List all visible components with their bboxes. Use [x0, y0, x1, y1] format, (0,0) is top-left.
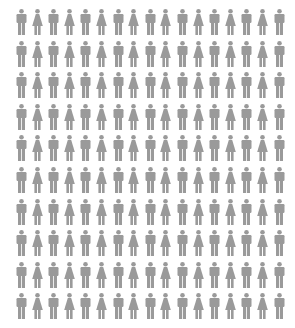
person-male-icon	[241, 135, 252, 161]
person-female-icon	[193, 104, 204, 130]
person-female-icon	[193, 167, 204, 193]
person-male-icon	[145, 230, 156, 256]
person-male-icon	[80, 167, 91, 193]
person-female-icon	[128, 293, 139, 319]
person-male-icon	[80, 262, 91, 288]
person-male-icon	[209, 9, 220, 35]
person-female-icon	[128, 135, 139, 161]
person-female-icon	[128, 167, 139, 193]
person-female-icon	[193, 72, 204, 98]
person-male-icon	[145, 72, 156, 98]
person-male-icon	[48, 293, 59, 319]
person-female-icon	[64, 199, 75, 225]
person-male-icon	[80, 135, 91, 161]
person-male-icon	[16, 230, 27, 256]
person-female-icon	[64, 167, 75, 193]
person-male-icon	[209, 230, 220, 256]
person-male-icon	[177, 230, 188, 256]
person-male-icon	[274, 230, 285, 256]
person-male-icon	[274, 262, 285, 288]
person-male-icon	[80, 104, 91, 130]
person-female-icon	[32, 262, 43, 288]
person-female-icon	[128, 199, 139, 225]
person-female-icon	[64, 135, 75, 161]
person-male-icon	[241, 262, 252, 288]
person-male-icon	[113, 262, 124, 288]
person-female-icon	[225, 230, 236, 256]
person-female-icon	[64, 293, 75, 319]
person-male-icon	[177, 293, 188, 319]
person-male-icon	[241, 293, 252, 319]
person-male-icon	[145, 135, 156, 161]
person-male-icon	[48, 167, 59, 193]
person-female-icon	[160, 41, 171, 67]
person-male-icon	[145, 167, 156, 193]
person-female-icon	[225, 293, 236, 319]
person-female-icon	[96, 104, 107, 130]
person-female-icon	[96, 230, 107, 256]
person-male-icon	[48, 199, 59, 225]
person-female-icon	[128, 41, 139, 67]
person-male-icon	[274, 293, 285, 319]
person-female-icon	[160, 104, 171, 130]
person-male-icon	[113, 9, 124, 35]
person-female-icon	[160, 167, 171, 193]
person-female-icon	[96, 135, 107, 161]
person-male-icon	[274, 135, 285, 161]
person-female-icon	[96, 262, 107, 288]
person-male-icon	[16, 72, 27, 98]
person-male-icon	[274, 199, 285, 225]
pictogram-grid	[0, 0, 295, 328]
person-female-icon	[32, 9, 43, 35]
person-male-icon	[241, 72, 252, 98]
person-male-icon	[80, 230, 91, 256]
person-male-icon	[16, 104, 27, 130]
person-female-icon	[32, 41, 43, 67]
person-female-icon	[257, 135, 268, 161]
person-female-icon	[64, 104, 75, 130]
person-female-icon	[128, 262, 139, 288]
person-female-icon	[64, 9, 75, 35]
person-male-icon	[16, 41, 27, 67]
person-female-icon	[96, 167, 107, 193]
person-female-icon	[128, 104, 139, 130]
person-female-icon	[160, 72, 171, 98]
person-female-icon	[193, 293, 204, 319]
person-male-icon	[177, 9, 188, 35]
person-male-icon	[241, 199, 252, 225]
person-male-icon	[113, 199, 124, 225]
person-male-icon	[241, 230, 252, 256]
person-female-icon	[160, 262, 171, 288]
person-male-icon	[209, 199, 220, 225]
person-female-icon	[225, 41, 236, 67]
person-male-icon	[177, 104, 188, 130]
person-female-icon	[32, 72, 43, 98]
person-male-icon	[145, 41, 156, 67]
person-female-icon	[160, 230, 171, 256]
person-female-icon	[32, 104, 43, 130]
person-male-icon	[274, 9, 285, 35]
person-female-icon	[257, 230, 268, 256]
person-female-icon	[225, 9, 236, 35]
person-female-icon	[193, 9, 204, 35]
person-male-icon	[48, 72, 59, 98]
person-female-icon	[64, 230, 75, 256]
person-female-icon	[64, 72, 75, 98]
person-female-icon	[193, 41, 204, 67]
person-male-icon	[113, 72, 124, 98]
person-female-icon	[96, 9, 107, 35]
person-male-icon	[80, 9, 91, 35]
person-male-icon	[80, 41, 91, 67]
person-male-icon	[209, 135, 220, 161]
person-female-icon	[32, 135, 43, 161]
person-female-icon	[257, 104, 268, 130]
person-male-icon	[48, 135, 59, 161]
person-male-icon	[113, 230, 124, 256]
person-male-icon	[177, 199, 188, 225]
person-female-icon	[128, 230, 139, 256]
person-male-icon	[16, 293, 27, 319]
person-female-icon	[257, 167, 268, 193]
person-male-icon	[241, 41, 252, 67]
person-male-icon	[177, 167, 188, 193]
person-male-icon	[16, 262, 27, 288]
